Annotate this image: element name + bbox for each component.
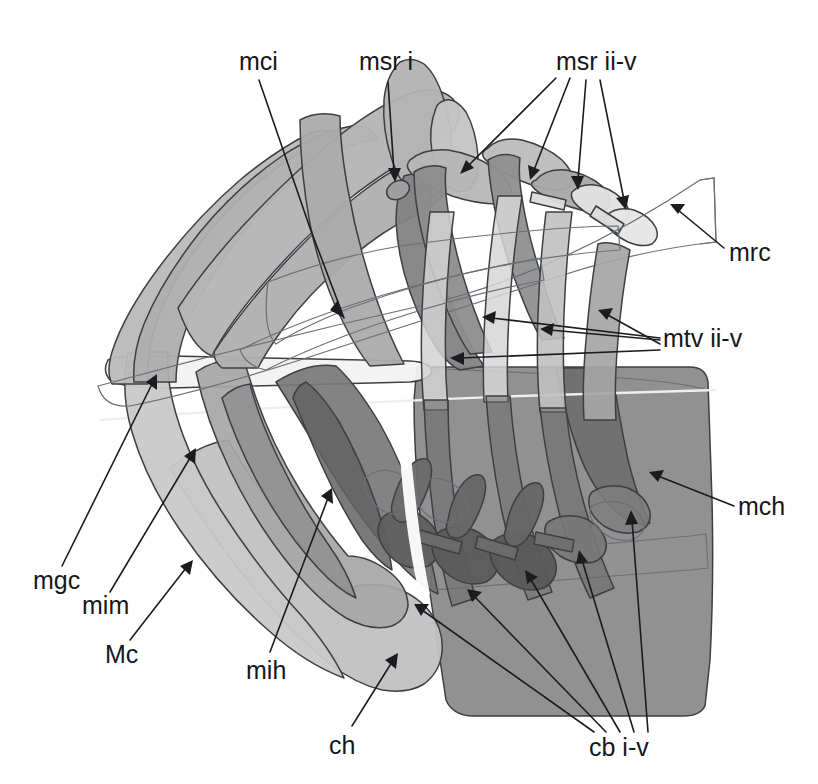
label-Mc: Mc bbox=[105, 640, 138, 668]
label-mci: mci bbox=[239, 47, 278, 75]
anatomical-figure: mci msr i msr ii-v mrc mtv ii-v mch mgc … bbox=[0, 0, 818, 784]
label-mim: mim bbox=[82, 591, 129, 619]
label-ch: ch bbox=[329, 731, 355, 759]
label-msr-i: msr i bbox=[359, 47, 413, 75]
label-mch: mch bbox=[738, 492, 785, 520]
label-mgc: mgc bbox=[33, 566, 80, 594]
label-mih: mih bbox=[246, 656, 286, 684]
label-cb-i-v: cb i-v bbox=[589, 733, 649, 761]
label-mtv-ii-v: mtv ii-v bbox=[663, 324, 743, 352]
label-msr-ii-v: msr ii-v bbox=[556, 47, 637, 75]
figure-canvas: mci msr i msr ii-v mrc mtv ii-v mch mgc … bbox=[0, 0, 818, 784]
label-mrc: mrc bbox=[729, 238, 771, 266]
